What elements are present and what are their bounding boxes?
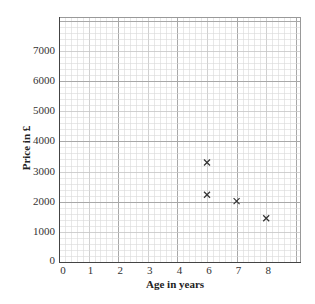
y-tick-label: 2000 — [15, 196, 55, 207]
x-tick-label: 2 — [113, 265, 127, 276]
data-point-marker — [204, 192, 210, 198]
y-tick-label: 7000 — [15, 45, 55, 56]
x-tick-label: 1 — [84, 265, 98, 276]
y-tick-label: 5000 — [15, 105, 55, 116]
x-tick-label: 7 — [232, 265, 246, 276]
grid-lines — [59, 17, 300, 263]
x-tick-label: 0 — [56, 265, 70, 276]
y-tick-label: 1000 — [15, 226, 55, 237]
data-point-marker — [204, 160, 210, 166]
x-tick-label: 4 — [172, 265, 186, 276]
y-tick-label: 0 — [15, 255, 55, 266]
x-tick-label: 6 — [202, 265, 216, 276]
data-point-marker — [234, 198, 240, 204]
x-axis-title: Age in years — [146, 278, 204, 290]
y-axis-title: Price in £ — [20, 118, 32, 178]
x-tick-label: 3 — [143, 265, 157, 276]
x-tick-label: 8 — [261, 265, 275, 276]
y-tick-label: 6000 — [15, 75, 55, 86]
scatter-chart: 01000200030004000500060007000 01234678 P… — [0, 0, 315, 304]
